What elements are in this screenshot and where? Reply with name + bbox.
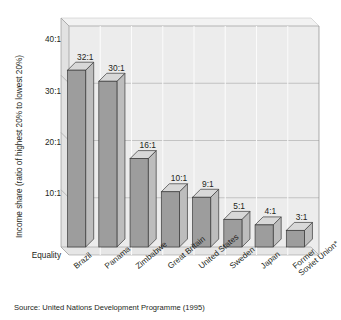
y-tick-label-20: 20:1 <box>17 138 61 147</box>
bar-value-label-2: 16:1 <box>140 140 156 150</box>
y-tick-label-30: 30:1 <box>17 87 61 96</box>
bar-3 <box>161 184 187 247</box>
bar-value-label-5: 5:1 <box>233 201 245 211</box>
y-tick-label-equality: Equality <box>17 251 61 260</box>
bar-0 <box>68 62 94 247</box>
y-tick-label-40: 40:1 <box>17 35 61 44</box>
chart-canvas <box>61 18 319 265</box>
plot-area: 32:130:116:110:19:15:14:13:1 <box>61 18 319 265</box>
bar-value-label-4: 9:1 <box>202 179 214 189</box>
bar-6 <box>255 217 281 247</box>
source-note: Source: United Nations Development Progr… <box>14 303 205 312</box>
y-axis-tick-labels: 40:1 30:1 20:1 10:1 Equality <box>15 0 61 320</box>
bar-value-label-7: 3:1 <box>296 212 308 222</box>
bar-value-label-3: 10:1 <box>171 173 187 183</box>
bar-value-label-1: 30:1 <box>108 63 124 73</box>
plot-top-bevel <box>61 18 319 26</box>
bar-7 <box>286 222 312 247</box>
bar-2 <box>130 151 156 247</box>
bar-1 <box>99 73 125 247</box>
y-tick-label-10: 10:1 <box>17 189 61 198</box>
bar-value-label-0: 32:1 <box>77 52 93 62</box>
bar-value-label-6: 4:1 <box>265 206 277 216</box>
